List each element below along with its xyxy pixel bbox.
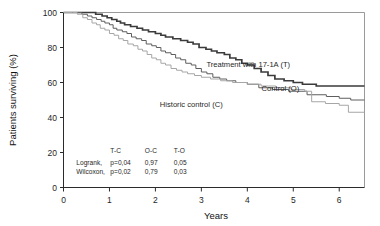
survival-curve-o (64, 13, 365, 101)
stats-column-header: T-C (110, 147, 121, 154)
x-tick-label: 4 (245, 195, 250, 205)
stats-cell: p=0,04 (110, 159, 131, 167)
series-label-t: Treatment with 17-1A (T) (206, 60, 290, 69)
kaplan-meier-chart: 0204060801000123456 Treatment with 17-1A… (0, 0, 380, 226)
stats-column-header: O-C (145, 147, 157, 154)
stats-cell: 0,03 (174, 168, 187, 175)
x-tick-label: 1 (107, 195, 112, 205)
x-tick-label: 0 (61, 195, 66, 205)
stats-column-header: T-O (174, 147, 185, 154)
y-tick-label: 60 (48, 78, 58, 88)
stats-cell: p=0,02 (110, 168, 131, 176)
x-tick-label: 6 (337, 195, 342, 205)
statistics-table: T-CO-CT-OLogrank,p=0,040,970,05Wilcoxon,… (76, 147, 187, 176)
stats-cell: 0,79 (145, 168, 158, 175)
y-tick-label: 0 (52, 183, 57, 193)
x-tick-label: 5 (291, 195, 296, 205)
y-tick-label: 20 (48, 148, 58, 158)
series-label-o: Control (O) (262, 84, 300, 93)
x-tick-label: 3 (199, 195, 204, 205)
stats-cell: 0,97 (145, 159, 158, 166)
x-axis-title: Years (204, 210, 228, 221)
series-annotations: Treatment with 17-1A (T)Control (O)Histo… (160, 60, 300, 109)
stats-row-label: Wilcoxon, (76, 168, 105, 175)
y-tick-label: 100 (43, 8, 57, 18)
stats-cell: 0,05 (174, 159, 187, 166)
stats-row-label: Logrank, (76, 159, 102, 167)
series-label-c: Historic control (C) (160, 100, 223, 109)
y-axis-title: Patients surviving (%) (7, 54, 18, 146)
survival-curve-t (64, 13, 365, 87)
y-tick-label: 80 (48, 43, 58, 53)
y-tick-label: 40 (48, 113, 58, 123)
survival-chart-figure: 0204060801000123456 Treatment with 17-1A… (0, 0, 380, 226)
x-tick-label: 2 (153, 195, 158, 205)
